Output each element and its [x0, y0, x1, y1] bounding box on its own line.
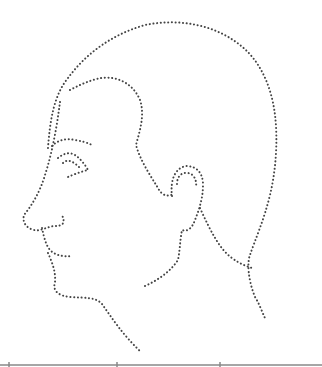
ear-inner: [177, 173, 196, 188]
ear: [145, 166, 203, 286]
neck-back: [200, 208, 252, 268]
eyebrow: [52, 139, 92, 146]
hairline: [70, 78, 173, 196]
skull-outline: [48, 22, 276, 318]
face-profile: [23, 102, 63, 230]
mouth-chin: [42, 228, 141, 352]
eye: [58, 153, 88, 178]
head-profile-drawing: [0, 0, 322, 367]
